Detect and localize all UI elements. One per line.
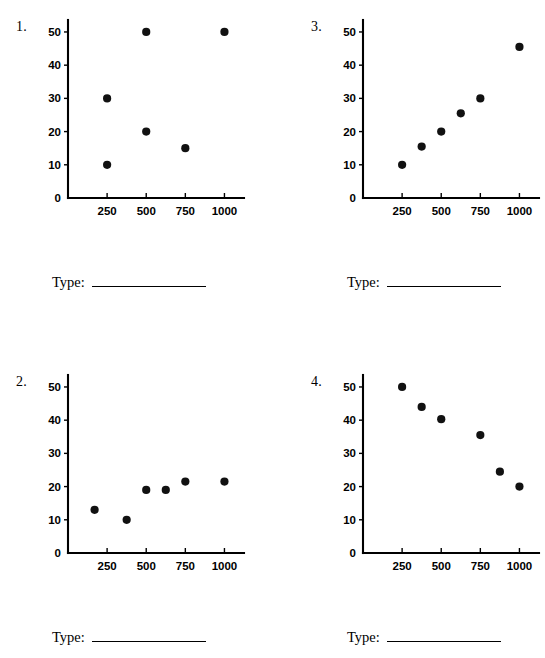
svg-text:250: 250: [393, 205, 412, 217]
data-point: [515, 43, 523, 51]
data-point: [103, 161, 111, 169]
svg-text:20: 20: [48, 481, 61, 493]
type-answer-row-2: Type:: [52, 629, 206, 646]
scatter-plot-2: 010203040502505007501000: [38, 369, 250, 589]
svg-text:750: 750: [471, 560, 490, 572]
svg-text:20: 20: [343, 481, 356, 493]
type-answer-blank[interactable]: [387, 631, 501, 642]
svg-text:10: 10: [48, 159, 61, 171]
svg-text:750: 750: [471, 205, 490, 217]
data-point: [103, 94, 111, 102]
data-point: [162, 486, 170, 494]
svg-text:0: 0: [350, 547, 356, 559]
problem-number: 2.: [16, 375, 27, 389]
svg-text:30: 30: [48, 447, 61, 459]
problem-2: 2. 010203040502505007501000 Type:: [8, 361, 258, 658]
type-label: Type:: [347, 629, 380, 646]
svg-text:750: 750: [176, 560, 195, 572]
svg-text:50: 50: [343, 381, 356, 393]
type-label: Type:: [52, 629, 85, 646]
svg-text:250: 250: [393, 560, 412, 572]
svg-text:1000: 1000: [507, 205, 533, 217]
data-point: [398, 161, 406, 169]
data-point: [457, 109, 465, 117]
svg-text:50: 50: [48, 26, 61, 38]
svg-text:500: 500: [432, 560, 451, 572]
type-answer-row-4: Type:: [347, 629, 501, 646]
svg-text:500: 500: [137, 205, 156, 217]
data-point: [437, 127, 445, 135]
svg-text:30: 30: [48, 92, 61, 104]
svg-text:0: 0: [55, 192, 61, 204]
scatter-plot-4: 010203040502505007501000: [333, 369, 545, 589]
scatter-plot-1: 010203040502505007501000: [38, 14, 250, 234]
problem-3: 3. 010203040502505007501000 Type:: [303, 6, 545, 306]
svg-text:750: 750: [176, 205, 195, 217]
type-answer-blank[interactable]: [92, 276, 206, 287]
svg-text:40: 40: [343, 59, 356, 71]
type-answer-blank[interactable]: [387, 276, 501, 287]
data-point: [142, 28, 150, 36]
type-label: Type:: [52, 274, 85, 291]
svg-text:250: 250: [98, 560, 117, 572]
data-point: [142, 486, 150, 494]
svg-text:1000: 1000: [212, 205, 238, 217]
svg-text:10: 10: [343, 159, 356, 171]
svg-text:0: 0: [350, 192, 356, 204]
type-answer-row-1: Type:: [52, 274, 206, 291]
scatter-plot-3: 010203040502505007501000: [333, 14, 545, 234]
svg-text:500: 500: [432, 205, 451, 217]
problem-number: 1.: [16, 20, 27, 34]
data-point: [476, 431, 484, 439]
data-point: [181, 478, 189, 486]
problem-number: 3.: [311, 20, 322, 34]
problem-1: 1. 010203040502505007501000 Type:: [8, 6, 258, 306]
svg-text:40: 40: [343, 414, 356, 426]
type-answer-blank[interactable]: [92, 631, 206, 642]
problem-4: 4. 010203040502505007501000 Type:: [303, 361, 545, 658]
svg-text:20: 20: [343, 126, 356, 138]
data-point: [437, 415, 445, 423]
data-point: [515, 482, 523, 490]
data-point: [496, 468, 504, 476]
svg-text:250: 250: [98, 205, 117, 217]
svg-text:40: 40: [48, 59, 61, 71]
svg-text:30: 30: [343, 92, 356, 104]
svg-text:10: 10: [343, 514, 356, 526]
type-label: Type:: [347, 274, 380, 291]
svg-text:30: 30: [343, 447, 356, 459]
data-point: [418, 403, 426, 411]
svg-text:500: 500: [137, 560, 156, 572]
svg-text:0: 0: [55, 547, 61, 559]
svg-text:1000: 1000: [507, 560, 533, 572]
problem-number: 4.: [311, 375, 322, 389]
data-point: [181, 144, 189, 152]
data-point: [220, 28, 228, 36]
svg-text:50: 50: [343, 26, 356, 38]
data-point: [123, 516, 131, 524]
svg-text:10: 10: [48, 514, 61, 526]
data-point: [142, 127, 150, 135]
svg-text:50: 50: [48, 381, 61, 393]
data-point: [90, 506, 98, 514]
data-point: [418, 142, 426, 150]
data-point: [398, 383, 406, 391]
svg-text:1000: 1000: [212, 560, 238, 572]
type-answer-row-3: Type:: [347, 274, 501, 291]
svg-text:20: 20: [48, 126, 61, 138]
data-point: [476, 94, 484, 102]
svg-text:40: 40: [48, 414, 61, 426]
data-point: [220, 478, 228, 486]
